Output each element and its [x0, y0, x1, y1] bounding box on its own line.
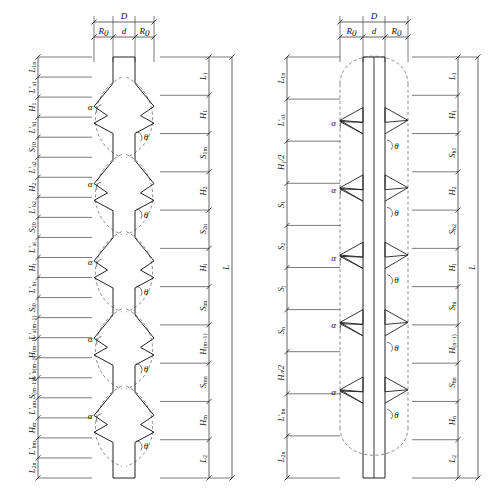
angle-arc — [137, 441, 143, 451]
label-subscript: am — [31, 401, 37, 409]
fin-left-return — [340, 122, 363, 134]
fin-right-upper — [385, 175, 408, 190]
fin-right-upper — [385, 310, 408, 325]
dimension-label: Hm — [26, 422, 36, 434]
angle-label: α — [88, 179, 93, 189]
angle-label: θ — [394, 275, 399, 285]
angle-alpha-marker: α — [88, 102, 102, 113]
engineering-diagram-svg: DR0dR0αθαθαθαθαθL1nL′a1H1L′b1S10L′a2H2L′… — [0, 0, 500, 503]
label-symbol: L′ — [26, 286, 36, 294]
fin-left-upper — [340, 377, 363, 392]
label-text: L′a(m−1) — [26, 315, 37, 340]
dimension-label-part: d — [372, 26, 377, 36]
dimension-label: S20 — [26, 222, 36, 232]
label-subscript: n — [280, 327, 286, 330]
dimension-label: H1 — [26, 103, 36, 113]
label-symbol: L′ — [26, 86, 36, 94]
angle-label: α — [331, 185, 336, 195]
dimension-label: L2 — [447, 455, 457, 464]
label-text: H₁/2 — [275, 154, 285, 171]
label-symbol: L′ — [26, 408, 36, 416]
dimension-label: L′bi — [26, 282, 36, 295]
label-subscript: 2 — [451, 455, 457, 458]
shaft-outline-left — [94, 57, 113, 478]
fin-left-upper — [340, 242, 363, 257]
label-text: L2 — [198, 455, 208, 464]
angle-arc — [137, 132, 143, 142]
label-text: Hi — [447, 263, 457, 272]
dimension-label: Hi — [198, 263, 208, 272]
label-text: S2n — [198, 224, 208, 234]
label-text: Hm — [26, 422, 36, 434]
dimension-label-D: D — [120, 11, 128, 21]
dimension-label: Sn — [275, 327, 285, 334]
label-subscript: b2 — [31, 201, 37, 207]
label-text: L′am — [26, 401, 36, 416]
label-text: Shn — [447, 377, 457, 387]
angle-arc — [387, 409, 393, 419]
label-subscript: bm — [31, 440, 37, 448]
label-subscript: bn — [280, 409, 286, 415]
dimension-label: L2 — [198, 455, 208, 464]
label-subscript: a(m−1) — [31, 315, 38, 333]
label-text: H1 — [26, 103, 36, 113]
label-symbol: L′ — [26, 167, 36, 175]
angle-theta-marker: θ — [387, 140, 399, 151]
dimension-label: L1 — [198, 72, 208, 81]
dimension-label: Hm — [198, 415, 208, 427]
label-subscript: 1n — [280, 73, 286, 79]
shaft-profile-group: αθαθαθαθαθ — [331, 56, 408, 478]
label-text: L2n — [275, 452, 285, 464]
angle-theta-marker: θ — [387, 207, 399, 218]
label-subscript: h1 — [451, 148, 457, 154]
angle-label: θ — [394, 343, 399, 353]
figure-canvas: DR0dR0αθαθαθαθαθL1nL′a1H1L′b1S10L′a2H2L′… — [0, 0, 500, 503]
label-text: H(m−1) — [198, 333, 209, 355]
label-text: L′b1 — [26, 121, 36, 135]
label-text: Hn — [447, 416, 457, 426]
fin-right-upper — [385, 377, 408, 392]
label-text: L1n — [26, 62, 36, 74]
angle-alpha-marker: α — [88, 257, 102, 268]
angle-label: α — [331, 118, 336, 128]
label-subscript: m — [31, 422, 37, 427]
dimension-label: Shi — [447, 301, 457, 310]
label-symbol: d — [372, 26, 377, 36]
label-subscript: h2 — [451, 224, 457, 230]
label-text: Sn — [275, 327, 285, 334]
dimension-label: L′b2 — [26, 201, 36, 215]
dimension-label: L′bn — [275, 409, 285, 423]
dimension-label: H₁/2 — [275, 154, 285, 171]
label-text: Sh2 — [447, 224, 457, 234]
angle-theta-marker: θ — [137, 209, 149, 220]
angle-arc — [137, 286, 143, 296]
shaft-profile-group: αθαθαθαθαθ — [88, 57, 154, 478]
dimension-label: Sh2 — [447, 224, 457, 234]
dimension-label: S1m — [198, 146, 208, 158]
dimension-label: L′a1 — [26, 81, 36, 94]
angle-arc — [137, 209, 143, 219]
label-text: Smn — [198, 376, 208, 388]
fin-left-return — [340, 189, 363, 201]
angle-label: α — [88, 411, 93, 421]
dimension-label: L′bm — [26, 440, 36, 456]
angle-label: α — [88, 334, 93, 344]
dimension-label: L2n — [26, 463, 36, 475]
angle-theta-marker: θ — [387, 275, 399, 286]
label-subscript: im — [202, 300, 208, 307]
label-text: H2 — [198, 186, 208, 196]
label-subscript: 2n — [31, 463, 37, 469]
dimension-label: L′b1 — [26, 121, 36, 135]
label-subscript: ai — [31, 242, 37, 247]
angle-theta-marker: θ — [137, 286, 149, 297]
right-diagram: DR0dR0αθαθαθαθαθL1nL′a1H₁/2S1S2SjSnHₙ/2L… — [275, 11, 480, 481]
dimension-label: S10 — [26, 142, 36, 152]
angle-theta-marker: θ — [137, 364, 149, 375]
label-subscript: 0 — [145, 28, 150, 38]
fin-right-upper — [385, 108, 408, 123]
overall-length-dimension: L — [458, 54, 481, 480]
label-text: Sj — [275, 285, 285, 291]
label-subscript: 2 — [451, 186, 457, 189]
label-subscript: 1 — [280, 201, 286, 204]
label-subscript: 20 — [31, 222, 37, 228]
